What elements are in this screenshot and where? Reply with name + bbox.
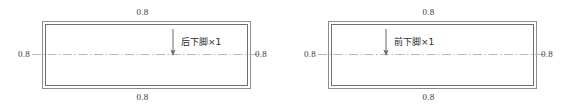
dimension-label-left: 0.8: [18, 50, 30, 59]
dimension-label-top: 0.8: [0, 8, 285, 17]
center-axis-line: [318, 54, 547, 55]
center-axis-line: [32, 54, 261, 55]
panel-outline-inner: [331, 24, 534, 86]
dimension-label-top: 0.8: [286, 8, 571, 17]
direction-arrow-down: [380, 29, 392, 56]
dimension-label-right: 0.8: [541, 50, 553, 59]
technical-drawing-canvas: 0.8 后下脚×1 0.8 0.8 0.8 0.8: [0, 0, 571, 111]
diagram-front-lower-corner: 0.8 前下脚×1 0.8 0.8 0.8: [286, 0, 571, 111]
panel-outline-inner: [45, 24, 248, 86]
part-name-label: 后下脚×1: [181, 38, 221, 47]
direction-arrow-down: [167, 29, 179, 56]
dimension-label-bottom: 0.8: [286, 93, 571, 102]
dimension-label-left: 0.8: [304, 50, 316, 59]
dimension-label-right: 0.8: [255, 50, 267, 59]
part-name-label: 前下脚×1: [394, 38, 434, 47]
dimension-label-bottom: 0.8: [0, 93, 285, 102]
diagram-rear-lower-corner: 0.8 后下脚×1 0.8 0.8 0.8: [0, 0, 285, 111]
